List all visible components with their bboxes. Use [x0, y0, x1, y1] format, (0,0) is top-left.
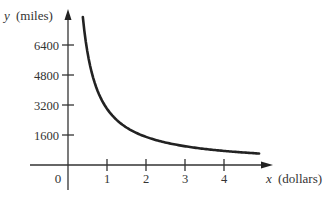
y-tick-label: 1600	[34, 129, 59, 143]
x-axis-arrow-icon	[261, 162, 273, 169]
x-axis-label: x (dollars)	[265, 171, 322, 186]
origin-label: 0	[55, 171, 62, 186]
y-axis-arrow-icon	[65, 9, 72, 20]
chart: 1600320048006400 1234 0 y (miles) x (dol…	[0, 0, 333, 206]
x-ticks: 1234	[104, 159, 228, 186]
x-tick-label: 3	[182, 172, 188, 186]
x-axis-unit: (dollars)	[278, 171, 322, 186]
y-tick-label: 6400	[34, 39, 59, 53]
y-tick-label: 3200	[34, 99, 59, 113]
x-tick-label: 1	[104, 172, 110, 186]
x-tick-label: 2	[143, 172, 149, 186]
y-tick-label: 4800	[34, 69, 59, 83]
y-axis-var: y	[2, 8, 10, 23]
y-axis-label: y (miles)	[2, 8, 53, 23]
data-curve	[83, 17, 259, 154]
x-tick-label: 4	[221, 172, 228, 186]
x-axis-var: x	[265, 171, 272, 186]
y-axis-unit: (miles)	[16, 8, 53, 23]
